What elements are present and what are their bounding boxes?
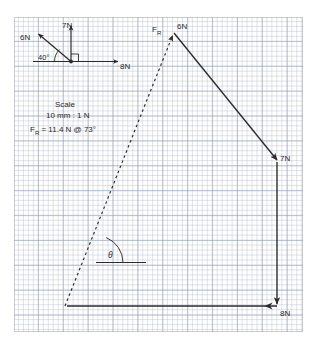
resultant-equation-text: = 11.4 N @ 73°	[39, 125, 96, 134]
fbd-label-6n: 6N	[20, 34, 30, 42]
fbd-label-7n: 7N	[62, 22, 72, 30]
polygon-label-8n: 8N	[280, 310, 290, 318]
scale-ratio: 10 mm : 1 N	[46, 110, 90, 122]
scale-resultant-equation: FR = 11.4 N @ 73°	[30, 124, 96, 138]
polygon-label-7n: 7N	[280, 155, 290, 163]
polygon-label-6n: 6N	[177, 23, 187, 31]
polygon-resultant-subscript: R	[157, 30, 161, 36]
polygon-resultant-dashed	[65, 36, 173, 307]
polygon-group	[65, 33, 277, 310]
fbd-angle-label-40: 40°	[38, 54, 50, 62]
polygon-edge-6n	[174, 33, 277, 160]
fbd-label-8n: 8N	[120, 63, 130, 71]
polygon-theta-label: θ	[108, 251, 113, 260]
polygon-label-resultant: FR	[152, 26, 161, 36]
diagram-stage: 6N 7N 8N 40° Scale 10 mm : 1 N FR = 11.4…	[0, 0, 318, 348]
fbd-origin-point	[69, 60, 73, 64]
